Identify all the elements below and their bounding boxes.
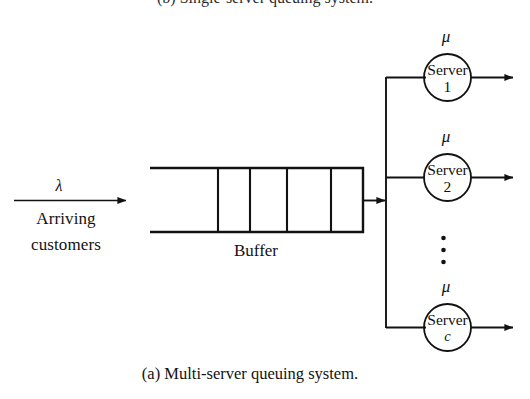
server-label-1: Server 1 [427, 61, 467, 96]
server-circles [424, 54, 471, 351]
arriving-customers-line1: Arriving [36, 210, 95, 227]
server-word-1: Server [427, 61, 467, 78]
service-rate-symbol-1: μ [442, 28, 451, 45]
service-rate-symbol-c: μ [442, 278, 451, 295]
server-label-2: Server 2 [427, 161, 467, 196]
server-label-c: Server c [427, 311, 467, 345]
arrival-rate-symbol: λ [56, 178, 63, 194]
departure-arrows [471, 78, 513, 328]
figure-canvas: (b) Single-server queuing system. [0, 0, 530, 399]
server-index-1: 1 [427, 78, 467, 95]
service-rate-symbol-2: μ [442, 128, 451, 145]
vertical-ellipsis-dots [441, 236, 446, 265]
server-word-2: Server [427, 161, 467, 178]
server-index-c: c [427, 329, 467, 345]
distribution-bus [386, 77, 426, 328]
server-index-2: 2 [427, 178, 467, 195]
server-word-c: Server [427, 311, 467, 328]
buffer-label: Buffer [234, 242, 278, 259]
buffer-dividers [218, 169, 331, 231]
figure-caption: (a) Multi-server queuing system. [142, 366, 358, 383]
arriving-customers-line2: customers [31, 236, 101, 253]
